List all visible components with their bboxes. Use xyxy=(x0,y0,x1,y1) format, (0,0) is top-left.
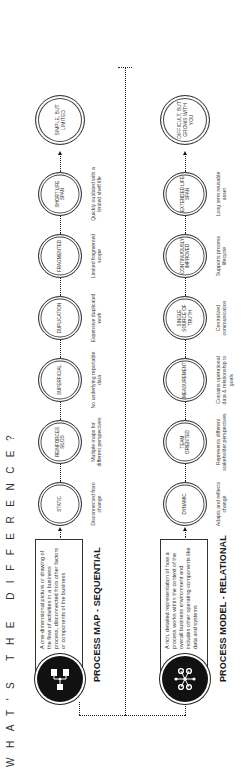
node-reinforces-silos: REINFORCES SILOS xyxy=(38,420,82,464)
lane2-arrow-line xyxy=(185,530,186,538)
node-superficial-desc: No underlying reportable data xyxy=(90,351,103,409)
lane1-arrow-head xyxy=(58,527,62,531)
lane1-final-arrow-head xyxy=(58,151,62,155)
link xyxy=(60,278,61,296)
link xyxy=(185,340,186,358)
node-continuously-improved-desc: Supports process lifecycle xyxy=(215,227,228,285)
node-short-life-span-desc: Quickly outdated with a limited shelf li… xyxy=(90,165,103,223)
node-simple-but-limited: SIMPLE, BUT LIMITED xyxy=(35,95,85,145)
node-short-life-span: SHORT LIFE SPAN xyxy=(38,172,82,216)
node-dynamic: DYNAMIC xyxy=(163,482,207,526)
lane-connector-right-top xyxy=(125,68,126,79)
network-icon xyxy=(173,667,197,691)
node-duplication-desc: Expensive duplicated work xyxy=(90,289,103,347)
link xyxy=(60,402,61,420)
node-team-oriented-desc: Represents different stakeholder perspec… xyxy=(215,413,228,471)
link xyxy=(185,278,186,296)
process-model-title: PROCESS MODEL - RELATIONAL xyxy=(218,535,228,682)
node-reinforces-silos-desc: Multiple maps for different perspectives xyxy=(90,413,103,471)
lane-connector-right xyxy=(118,67,132,68)
node-superficial: SUPERFICIAL xyxy=(38,358,82,402)
link xyxy=(60,340,61,358)
node-team-oriented: TEAM ORIENTED xyxy=(163,420,207,464)
process-map-icon-badge xyxy=(37,656,83,702)
node-static: STATIC xyxy=(38,482,82,526)
node-fragmented: FRAGMENTED xyxy=(38,234,82,278)
lane-connector-left-top xyxy=(79,702,80,716)
node-dynamic-desc: Adapts and reflects change xyxy=(215,475,228,533)
node-measurement-desc: Contains operational data & relationship… xyxy=(215,351,234,409)
node-difficult-but-grows: DIFFICULT, BUT GROWS WITH YOU xyxy=(160,95,210,145)
link xyxy=(60,464,61,482)
lane2-final-arrow-line xyxy=(185,154,186,172)
node-single-source-of-truth-desc: Centralized communication xyxy=(215,289,228,347)
lane2-final-arrow-head xyxy=(183,151,187,155)
lane2-arrow-head xyxy=(183,527,187,531)
link xyxy=(185,464,186,482)
link xyxy=(185,402,186,420)
process-map-title: PROCESS MAP - SEQUENTIAL xyxy=(92,547,102,682)
process-model-intro-text: A rich, detailed representation of how a… xyxy=(164,547,198,649)
node-extended-life-span: EXTENDED LIFE SPAN xyxy=(163,172,207,216)
lane1-arrow-line xyxy=(60,530,61,538)
link xyxy=(60,216,61,234)
node-continuously-improved: CONTINUOUSLY IMPROVED xyxy=(163,234,207,278)
node-measurement: MEASUREMENT xyxy=(163,358,207,402)
lane-connector-left-bottom xyxy=(185,702,186,716)
flowchart-icon xyxy=(50,667,70,691)
process-model-icon-badge xyxy=(162,656,208,702)
node-fragmented-desc: Limited fragmented scope xyxy=(90,227,103,285)
node-single-source-of-truth: SINGLE SOURCE OF TRUTH xyxy=(163,296,207,340)
process-map-intro-text: A one-dimensional picture or drawing of … xyxy=(39,548,66,649)
diagram-canvas: WHAT'S THE DIFFERENCE? A one-dimensional… xyxy=(0,0,252,779)
diagram-title: WHAT'S THE DIFFERENCE? xyxy=(5,426,16,767)
lane1-final-arrow-line xyxy=(60,154,61,172)
node-extended-life-span-desc: Long term reusable asset xyxy=(215,165,228,223)
node-static-desc: Disconnected from change xyxy=(90,475,103,533)
node-duplication: DUPLICATION xyxy=(38,296,82,340)
link xyxy=(185,216,186,234)
lane-connector-left xyxy=(79,715,185,716)
lane-connector-middle xyxy=(125,68,126,716)
